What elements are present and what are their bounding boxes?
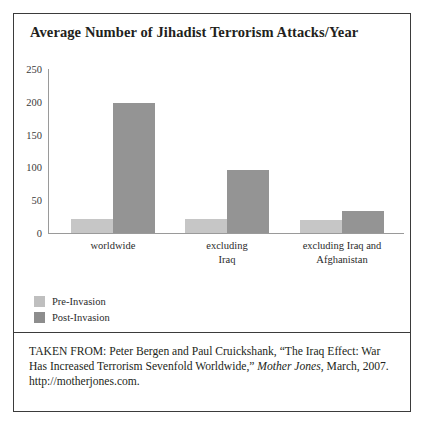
category-label: excluding Iraq andAfghanistan [283, 239, 401, 267]
category-label: excludingIraq [168, 239, 286, 267]
chart-figure-box: Average Number of Jihadist Terrorism Att… [13, 13, 411, 412]
source-divider [14, 332, 410, 333]
bar-pre-invasion [71, 219, 113, 233]
chart-legend: Pre-InvasionPost-Invasion [34, 295, 110, 327]
y-tick-label: 200 [12, 96, 42, 107]
bar-pre-invasion [300, 220, 342, 233]
y-tick-label: 100 [12, 162, 42, 173]
source-line-2-suffix: , [321, 360, 324, 373]
category-label-line: excluding Iraq and [283, 239, 401, 253]
bar-post-invasion [227, 170, 269, 233]
legend-label: Pre-Invasion [52, 296, 106, 307]
legend-item: Post-Invasion [34, 311, 110, 324]
bar-post-invasion [113, 103, 155, 233]
category-label: worldwide [54, 239, 172, 253]
category-label-line: Afghanistan [283, 253, 401, 267]
y-tick-label: 50 [12, 195, 42, 206]
y-tick-label: 0 [12, 228, 42, 239]
legend-item: Pre-Invasion [34, 295, 110, 308]
bar-post-invasion [342, 211, 384, 233]
category-label-line: worldwide [54, 239, 172, 253]
category-label-line: excluding [168, 239, 286, 253]
y-axis-line [48, 69, 49, 233]
bar-pre-invasion [185, 219, 227, 233]
y-tick-label: 150 [12, 129, 42, 140]
source-publication: Mother Jones [257, 360, 320, 373]
legend-swatch-icon [34, 312, 45, 323]
y-tick-label: 250 [12, 64, 42, 75]
source-line-1: TAKEN FROM: Peter Bergen and Paul Cruick… [29, 345, 359, 358]
category-label-line: Iraq [168, 253, 286, 267]
x-axis-line [48, 233, 404, 234]
legend-swatch-icon [34, 296, 45, 307]
legend-label: Post-Invasion [52, 312, 110, 323]
source-note: TAKEN FROM: Peter Bergen and Paul Cruick… [29, 344, 397, 390]
